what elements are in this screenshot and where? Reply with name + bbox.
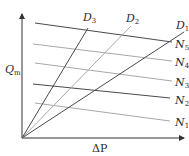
n1-label: N1 [174,116,189,130]
n-lines-group: N5N4N3N2N1 [33,23,189,130]
x-axis-label: ΔP [92,142,108,155]
n3-label: N3 [174,76,189,90]
n5-label: N5 [174,38,189,52]
n2-label: N2 [174,94,189,108]
y-axis-label-main: Q [5,63,14,76]
d3-line [22,28,88,138]
d3-label: D3 [82,11,96,25]
n5-line [35,23,172,42]
d1-label: D1 [175,19,189,33]
n4-line [33,44,172,61]
n3-line [35,63,172,81]
y-axis-label: Qm [5,63,21,77]
n1-line [35,103,170,121]
d2-label: D2 [125,12,139,26]
n4-label: N4 [174,56,189,70]
y-axis-label-sub: m [14,69,21,77]
d2-line [22,26,131,138]
d-lines-group: D3D2D1 [22,11,189,138]
diagram-canvas: N5N4N3N2N1 D3D2D1 Qm ΔP [0,0,189,156]
